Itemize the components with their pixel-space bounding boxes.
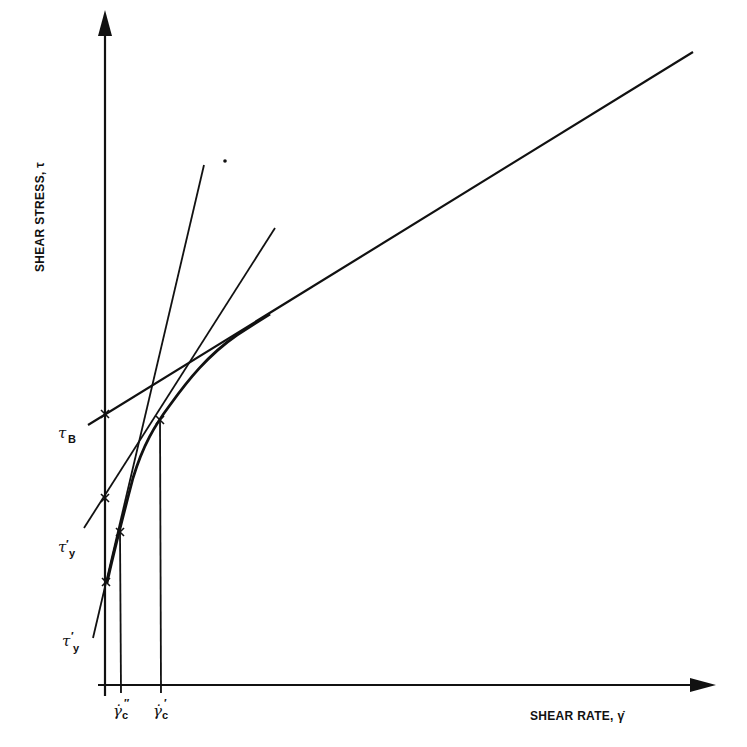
tau-y-label: τ ′ y xyxy=(58,538,76,559)
svg-text:′: ′ xyxy=(71,630,74,642)
svg-text:γ̇: γ̇ xyxy=(153,702,162,720)
gamma-c-single-label: γ̇ ′ c xyxy=(153,697,168,721)
x-axis-label: SHEAR RATE, γ̇ xyxy=(530,709,625,723)
svg-text:c: c xyxy=(162,709,168,721)
rheogram-diagram: SHEAR STRESS, τ SHEAR RATE, γ̇ τ B τ ′ y… xyxy=(0,0,747,747)
tau-b-label: τ B xyxy=(58,424,76,445)
y-axis-arrow-icon xyxy=(98,10,112,36)
y-axis xyxy=(98,10,112,696)
svg-text:c: c xyxy=(122,709,128,721)
gamma-c-single-dropline xyxy=(160,420,161,693)
svg-text:′: ′ xyxy=(164,697,167,709)
gamma-c-double-dropline xyxy=(120,532,121,693)
stray-dot xyxy=(223,159,227,163)
svg-text:B: B xyxy=(68,433,76,445)
y-axis-label: SHEAR STRESS, τ xyxy=(33,162,47,272)
svg-text:τ: τ xyxy=(62,632,71,650)
svg-text:″: ″ xyxy=(124,697,130,709)
x-axis-arrow-icon xyxy=(690,678,716,692)
bingham-line xyxy=(88,52,693,425)
x-axis xyxy=(98,678,716,692)
gamma-c-double-label: γ̇ ″ c xyxy=(113,697,130,721)
intercept-marks xyxy=(101,410,164,586)
tau-y-prime-label: τ ′ y xyxy=(62,630,80,654)
flow-curve xyxy=(107,314,270,583)
svg-text:y: y xyxy=(69,547,76,559)
svg-text:y: y xyxy=(73,642,80,654)
svg-text:τ: τ xyxy=(58,424,67,442)
svg-text:γ̇: γ̇ xyxy=(113,702,122,720)
